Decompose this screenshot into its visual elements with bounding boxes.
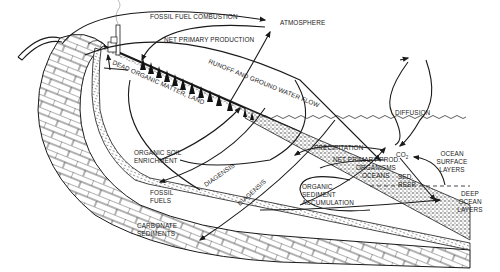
label-dead-organic-matter: DEAD ORGANIC MATTER, LAND (112, 59, 206, 106)
label-ocean-surface-2: SURFACE (437, 158, 468, 165)
label-organic-soil-2: ENRICHMENT (134, 157, 178, 164)
label-organic-sediment-2: SEDIMENT (302, 191, 336, 198)
label-ocean-surface-3: LAYERS (439, 166, 464, 173)
label-deep-ocean-3: LAYERS (457, 206, 482, 213)
label-carbonate-2: SEDIMENTS (137, 230, 175, 237)
label-organic-sediment: ORGANIC (302, 183, 333, 190)
label-sed-resp: SED. (398, 173, 413, 180)
label-sed-resp-2: RESP. (398, 181, 417, 188)
label-net-primary-prod-ocean: NET PRIMARY PROD. (333, 156, 400, 163)
label-net-primary-production: NET PRIMARY PRODUCTION (164, 36, 255, 43)
label-organisms-2: OCEANS (362, 172, 390, 179)
label-atmosphere: ATMOSPHERE (280, 19, 325, 26)
ocean-surface-waves (262, 116, 466, 119)
label-diffusion: DIFFUSION (395, 109, 431, 116)
label-organic-sediment-3: ACCUMULATION (302, 199, 354, 206)
label-organic-soil: ORGANIC SOIL (134, 149, 182, 156)
label-fossil-fuels-2: FUELS (150, 197, 171, 204)
label-ocean-surface: OCEAN (440, 150, 464, 157)
label-fossil-fuels: FOSSIL (150, 189, 174, 196)
carbon-cycle-diagram: FOSSIL FUEL COMBUSTION ATMOSPHERE NET PR… (0, 0, 500, 272)
label-precipitation: PRECIPITATION (314, 144, 364, 151)
label-organisms: ORGANISMS (356, 164, 396, 171)
label-carbonate: CARBONATE (137, 222, 177, 229)
label-fossil-fuel-combustion: FOSSIL FUEL COMBUSTION (150, 13, 238, 20)
label-deep-ocean-2: OCEAN (458, 198, 482, 205)
label-deep-ocean: DEEP (461, 190, 479, 197)
